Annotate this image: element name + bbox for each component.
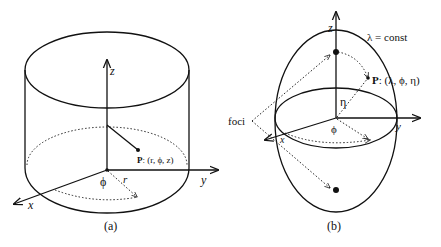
point-p-dot xyxy=(136,148,140,152)
z-axis-label: z xyxy=(109,64,115,78)
eta-label: η xyxy=(340,95,346,109)
foci-pointer-top xyxy=(252,55,330,121)
phi-dotted-arc xyxy=(55,190,138,200)
phi-dotted-line xyxy=(337,119,368,139)
foci-pointer-bottom xyxy=(252,121,330,188)
point-p-label: P: (r, ϕ, z) xyxy=(137,155,174,165)
z-axis-label: z xyxy=(327,21,333,35)
y-axis-label: y xyxy=(395,120,401,132)
x-axis-label: x xyxy=(27,198,34,212)
phi-label: ϕ xyxy=(331,123,337,135)
coordinate-systems-diagram: z y x ϕ r P: (r, ϕ, z) (a) z y x λ = con… xyxy=(0,0,441,247)
caption-a: (a) xyxy=(104,219,117,233)
eta-arc xyxy=(338,52,368,78)
r-label: r xyxy=(123,173,128,185)
focus-bottom-dot xyxy=(333,187,339,193)
figure-a-cylinder: z y x ϕ r P: (r, ϕ, z) (a) xyxy=(14,32,218,233)
position-vector xyxy=(107,125,138,150)
y-axis-label: y xyxy=(200,173,207,187)
figure-b-spheroid: z y x λ = const foci η ϕ P: (λ, ϕ, η) (b… xyxy=(228,12,420,233)
point-p-dot xyxy=(366,76,370,80)
surface-label: λ = const xyxy=(367,31,407,43)
x-axis-label: x xyxy=(279,134,285,145)
phi-label: ϕ xyxy=(100,175,106,189)
point-p-label: P: (λ, ϕ, η) xyxy=(372,74,420,87)
caption-b: (b) xyxy=(327,219,341,233)
foci-label: foci xyxy=(228,115,245,127)
